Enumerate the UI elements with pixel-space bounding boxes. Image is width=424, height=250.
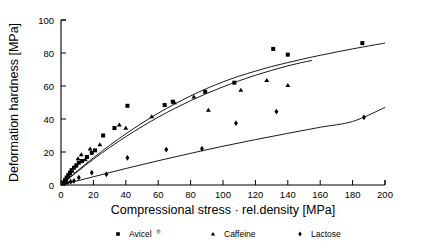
x-tick-label: 200 bbox=[377, 189, 393, 200]
legend-label-avicel: Avicel bbox=[129, 229, 152, 239]
data-point-lactose bbox=[72, 178, 76, 184]
y-tick-label: 40 bbox=[43, 114, 54, 125]
fit-curves-layer bbox=[61, 43, 385, 185]
legend-layer: Avicel®CaffeineLactose bbox=[116, 229, 341, 240]
y-tick-label: 0 bbox=[49, 180, 54, 191]
x-tick-label: 80 bbox=[185, 189, 196, 200]
data-point-caffeine bbox=[97, 142, 102, 146]
legend-marker-lactose bbox=[298, 231, 301, 236]
data-point-avicel bbox=[286, 53, 290, 57]
data-point-avicel bbox=[125, 104, 129, 108]
data-point-avicel bbox=[360, 41, 364, 45]
data-point-caffeine bbox=[117, 123, 122, 127]
data-point-avicel bbox=[93, 148, 97, 152]
legend-label-caffeine: Caffeine bbox=[224, 229, 256, 239]
data-point-lactose bbox=[125, 155, 129, 161]
x-axis-title: Compressional stress · rel.density [MPa] bbox=[111, 203, 335, 217]
fit-curve-caffeine bbox=[61, 60, 312, 185]
data-point-avicel bbox=[203, 90, 207, 94]
y-tick-label: 80 bbox=[43, 48, 54, 59]
data-point-lactose bbox=[164, 147, 168, 153]
data-point-caffeine bbox=[206, 108, 211, 112]
y-tick-label: 60 bbox=[43, 81, 54, 92]
fit-curve-lactose bbox=[61, 107, 385, 185]
data-point-avicel bbox=[163, 103, 167, 107]
data-point-avicel bbox=[232, 81, 236, 85]
legend-label-lactose: Lactose bbox=[311, 229, 341, 239]
fit-curve-avicel bbox=[61, 43, 385, 185]
axis-titles-layer: Compressional stress · rel.density [MPa]… bbox=[7, 23, 335, 217]
chart-figure: 020406080100020406080100120140160180200 … bbox=[0, 0, 424, 250]
data-point-lactose bbox=[69, 179, 73, 185]
x-tick-label: 40 bbox=[121, 189, 132, 200]
x-tick-label: 100 bbox=[215, 189, 231, 200]
data-point-caffeine bbox=[79, 152, 84, 156]
data-point-lactose bbox=[77, 175, 81, 181]
data-point-lactose bbox=[104, 171, 108, 177]
data-point-caffeine bbox=[238, 88, 243, 92]
x-tick-label: 120 bbox=[247, 189, 263, 200]
x-tick-label: 160 bbox=[312, 189, 328, 200]
legend-marker-avicel bbox=[116, 232, 120, 236]
data-point-caffeine bbox=[264, 78, 269, 82]
x-tick-label: 140 bbox=[280, 189, 296, 200]
y-tick-label: 100 bbox=[38, 15, 54, 26]
x-tick-label: 60 bbox=[153, 189, 164, 200]
x-tick-label: 20 bbox=[88, 189, 99, 200]
scatter-plot-canvas: 020406080100020406080100120140160180200 … bbox=[0, 0, 424, 250]
data-point-caffeine bbox=[123, 126, 128, 130]
data-point-avicel bbox=[271, 47, 275, 51]
legend-marker-caffeine bbox=[211, 232, 215, 236]
y-tick-label: 20 bbox=[43, 147, 54, 158]
data-point-caffeine bbox=[88, 146, 93, 150]
data-point-avicel bbox=[101, 134, 105, 138]
axes-layer bbox=[61, 20, 385, 185]
data-point-caffeine bbox=[285, 83, 290, 87]
data-point-avicel bbox=[112, 126, 116, 130]
data-point-lactose bbox=[275, 109, 279, 115]
data-point-lactose bbox=[234, 120, 238, 126]
x-tick-label: 180 bbox=[345, 189, 361, 200]
data-point-lactose bbox=[90, 170, 94, 176]
axis-lines bbox=[61, 20, 385, 185]
data-point-caffeine bbox=[76, 156, 81, 160]
y-axis-title: Deformation hardness [MPa] bbox=[7, 23, 21, 182]
x-tick-label: 0 bbox=[58, 189, 63, 200]
legend-superscript-avicel: ® bbox=[157, 229, 161, 235]
data-points-layer bbox=[61, 41, 365, 186]
data-point-lactose bbox=[362, 115, 366, 121]
